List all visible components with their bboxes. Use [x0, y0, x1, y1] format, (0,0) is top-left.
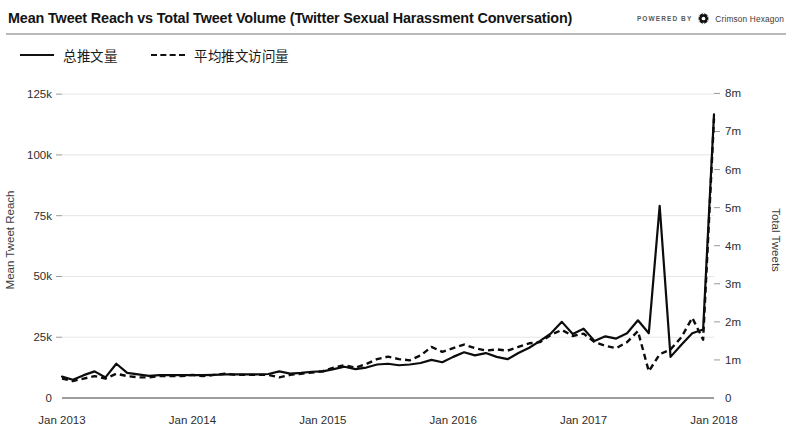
page-title: Mean Tweet Reach vs Total Tweet Volume (… [8, 11, 572, 25]
y-axis-left-title: Mean Tweet Reach [4, 191, 16, 290]
brand-name: Crimson Hexagon [715, 14, 784, 24]
title-divider [6, 33, 786, 35]
gridlines [62, 94, 714, 337]
y-axis-left-tick-label: 25k [33, 331, 52, 343]
hexagon-icon [697, 12, 710, 25]
series-line-total-tweets [62, 114, 714, 379]
y-axis-right-tick-label: 1m [725, 354, 741, 366]
y-axis-left-tick-label: 50k [33, 270, 52, 282]
y-axis-right-tick-label: 0 [725, 392, 731, 404]
x-axis-tick-label: Jan 2017 [560, 414, 607, 426]
y-axis-left-tick-label: 0 [46, 392, 52, 404]
chart-svg: 025k50k75k100k125k 01m2m3m4m5m6m7m8m Jan… [0, 60, 792, 431]
series-line-mean-reach [62, 118, 714, 381]
x-axis-tick-label: Jan 2016 [430, 414, 477, 426]
y-axis-right-title: Total Tweets [770, 208, 782, 272]
y-axis-left-tick-label: 125k [27, 88, 52, 100]
y-axis-right-tick-label: 7m [725, 125, 741, 137]
chart-header: Mean Tweet Reach vs Total Tweet Volume (… [0, 0, 792, 34]
x-axis-tick-label: Jan 2014 [169, 414, 217, 426]
x-axis-ticks: Jan 2013Jan 2014Jan 2015Jan 2016Jan 2017… [38, 414, 737, 426]
y-axis-right-tick-label: 2m [725, 316, 741, 328]
y-axis-left-tick-label: 75k [33, 210, 52, 222]
x-axis-tick-label: Jan 2013 [38, 414, 85, 426]
x-axis-tick-label: Jan 2015 [299, 414, 346, 426]
chart-plot-area: 025k50k75k100k125k 01m2m3m4m5m6m7m8m Jan… [0, 60, 792, 431]
y-axis-right-tick-label: 3m [725, 278, 741, 290]
y-axis-right-ticks: 01m2m3m4m5m6m7m8m [714, 87, 741, 404]
line-solid-icon [20, 54, 54, 56]
line-dashed-icon [151, 54, 185, 56]
powered-by-label: POWERED BY [637, 15, 692, 22]
y-axis-right-tick-label: 4m [725, 240, 741, 252]
y-axis-right-tick-label: 8m [725, 87, 741, 99]
y-axis-right-tick-label: 5m [725, 202, 741, 214]
x-axis-tick-label: Jan 2018 [690, 414, 737, 426]
y-axis-right-tick-label: 6m [725, 164, 741, 176]
y-axis-left-tick-label: 100k [27, 149, 52, 161]
brand-attribution: POWERED BY Crimson Hexagon [637, 12, 784, 25]
y-axis-left-ticks: 025k50k75k100k125k [27, 88, 62, 404]
